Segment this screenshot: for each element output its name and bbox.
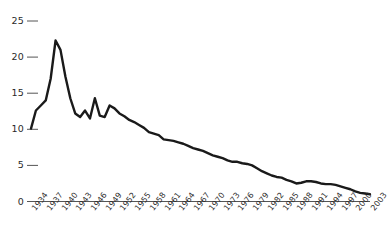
y-axis-tick-label: 20 xyxy=(2,51,24,62)
y-axis-tick-label: 25 xyxy=(2,15,24,26)
data-series-line xyxy=(31,40,370,194)
y-axis-tick-label: 5 xyxy=(2,159,24,170)
y-axis-tick-label: 10 xyxy=(2,123,24,134)
y-axis-tick-label: 15 xyxy=(2,87,24,98)
y-axis-tick-label: 0 xyxy=(2,196,24,207)
